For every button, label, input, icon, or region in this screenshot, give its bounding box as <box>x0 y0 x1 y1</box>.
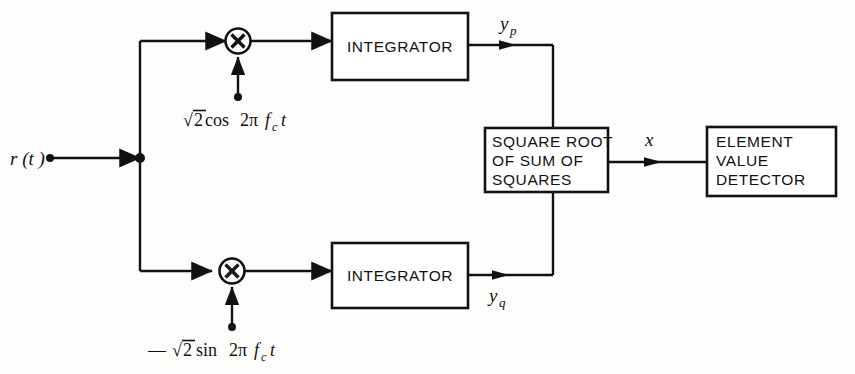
lower-output-subscript: q <box>499 295 506 310</box>
detector-line-1: ELEMENT <box>716 133 793 150</box>
upper-carrier-function: cos <box>205 110 229 130</box>
upper-output-label: y p <box>498 13 517 38</box>
lower-carrier-sign: — <box>147 340 167 360</box>
lower-carrier-argument-prefix: 2π <box>229 340 247 360</box>
upper-carrier-frequency-subscript: c <box>272 120 278 134</box>
upper-integrator-label: INTEGRATOR <box>347 38 453 55</box>
combiner-output-arrowhead <box>644 157 662 167</box>
lower-output-label: y q <box>487 285 506 310</box>
upper-output-subscript: p <box>509 23 517 38</box>
upper-output-symbol: y <box>498 13 509 34</box>
combiner-line-2: OF SUM OF <box>492 152 584 169</box>
upper-multiplier <box>226 29 251 54</box>
input-signal-label: r (t ) <box>10 148 45 170</box>
combiner-output-label: x <box>644 129 654 150</box>
detector-line-2: VALUE <box>716 152 769 169</box>
block-diagram-canvas: r (t ) √ 2 cos 2π f c t <box>0 0 855 374</box>
upper-carrier-argument-prefix: 2π <box>240 110 258 130</box>
lower-output-arrowhead <box>492 270 509 280</box>
upper-carrier-radicand: 2 <box>194 110 203 130</box>
upper-output-arrowhead <box>499 40 516 50</box>
lower-carrier-function: sin <box>196 340 217 360</box>
lower-carrier-time: t <box>270 340 276 360</box>
split-junction-dot <box>135 153 145 163</box>
lower-carrier-frequency-subscript: c <box>261 350 267 364</box>
block-diagram-svg: r (t ) √ 2 cos 2π f c t <box>0 0 855 374</box>
upper-carrier-label: √ 2 cos 2π f c t <box>183 110 287 134</box>
lower-carrier-terminal-dot <box>228 323 236 331</box>
upper-carrier-terminal-dot <box>234 93 242 101</box>
detector-line-3: DETECTOR <box>716 171 806 188</box>
upper-carrier-radical: √ <box>183 110 193 130</box>
lower-multiplier <box>220 259 245 284</box>
lower-carrier-radical: √ <box>172 340 182 360</box>
lower-carrier-label: — √ 2 sin 2π f c t <box>147 340 276 364</box>
lower-output-symbol: y <box>487 285 498 306</box>
lower-carrier-radicand: 2 <box>183 340 192 360</box>
lower-integrator-label: INTEGRATOR <box>347 267 453 284</box>
upper-carrier-time: t <box>281 110 287 130</box>
combiner-line-1: SQUARE ROOT <box>492 133 613 150</box>
combiner-line-3: SQUARES <box>492 171 572 188</box>
